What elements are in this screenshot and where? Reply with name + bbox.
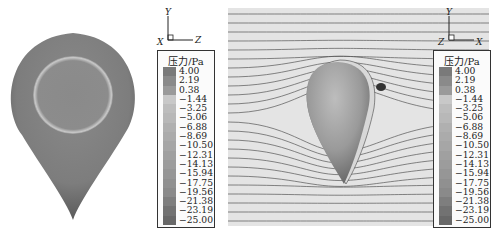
colorbar-labels: 4.002.190.38−1.44−3.25−5.06−6.88−8.69−10…	[179, 66, 213, 224]
axis-label-z: Z	[195, 36, 201, 45]
colorbar-swatch	[439, 132, 452, 141]
colorbar-swatch	[439, 76, 452, 85]
axis-triad-left: Y X Z	[155, 10, 215, 50]
colorbar-swatch	[163, 113, 176, 122]
colorbar-swatch	[163, 179, 176, 188]
colorbar-swatch	[439, 169, 452, 178]
colorbar-left: 压力/Pa 4.002.190.38−1.44−3.25−5.06−6.88−8…	[157, 50, 215, 228]
axis-label-y: Y	[446, 8, 452, 17]
colorbar-swatch	[439, 160, 452, 169]
colorbar-swatch	[439, 206, 452, 215]
colorbar-swatch	[439, 188, 452, 197]
colorbar-swatch	[439, 197, 452, 206]
colorbar-swatch	[439, 113, 452, 122]
streamline-view: Y Z X 压力/Pa 4.002.190.38−1.44−3.25−5.06−…	[228, 8, 489, 226]
colorbar-swatch	[163, 104, 176, 113]
colorbar-swatch	[439, 151, 452, 160]
colorbar-swatch	[163, 132, 176, 141]
colorbar-level-label: −25.00	[179, 215, 213, 224]
colorbar-swatch	[163, 206, 176, 215]
axis-label-z: Z	[438, 38, 444, 47]
axis-label-x: X	[476, 38, 482, 47]
colorbar-swatch	[439, 179, 452, 188]
colorbar-swatch	[163, 151, 176, 160]
colorbar-swatch	[163, 141, 176, 150]
colorbar-swatch	[163, 197, 176, 206]
colorbar-swatch	[439, 216, 452, 225]
colorbar-swatch	[163, 169, 176, 178]
surface-pressure-view	[0, 0, 150, 234]
colorbar-swatch	[163, 86, 176, 95]
colorbar-level-label: −25.00	[455, 215, 489, 224]
axis-label-y: Y	[165, 8, 171, 17]
colorbar-swatch	[439, 104, 452, 113]
colorbar-swatch	[163, 216, 176, 225]
colorbar-swatch	[163, 123, 176, 132]
colorbar-swatches	[439, 67, 452, 225]
colorbar-swatches	[163, 67, 176, 225]
colorbar-swatch	[439, 123, 452, 132]
colorbar-swatch	[439, 141, 452, 150]
colorbar-swatch	[163, 160, 176, 169]
colorbar-swatch	[439, 86, 452, 95]
colorbar-swatch	[163, 95, 176, 104]
colorbar-swatch	[163, 76, 176, 85]
colorbar-swatch	[439, 67, 452, 76]
colorbar-labels: 4.002.190.38−1.44−3.25−5.06−6.88−8.69−10…	[455, 66, 489, 224]
colorbar-right: 压力/Pa 4.002.190.38−1.44−3.25−5.06−6.88−8…	[433, 50, 491, 228]
colorbar-swatch	[439, 95, 452, 104]
colorbar-swatch	[163, 67, 176, 76]
colorbar-swatch	[163, 188, 176, 197]
teardrop-body	[0, 0, 150, 234]
axis-label-x: X	[157, 38, 163, 47]
axis-triad-right: Y Z X	[434, 10, 489, 50]
